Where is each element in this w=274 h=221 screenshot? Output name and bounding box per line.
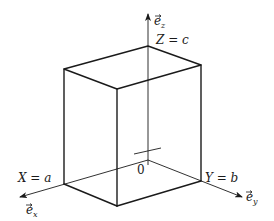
box <box>64 46 201 206</box>
z-axis-label: ez <box>154 14 166 30</box>
box-diagram: ez Z = c X = a Y = b ex ey 0 <box>0 0 274 221</box>
y-axis-label: ey <box>246 190 258 206</box>
origin-label: 0 <box>137 163 145 177</box>
box-bottom-left <box>64 184 117 206</box>
origin-tick <box>134 148 161 154</box>
box-bottom-right <box>117 181 201 206</box>
y-intercept-label: Y = b <box>205 171 238 185</box>
x-axis-label: ex <box>26 203 38 219</box>
z-intercept-label: Z = c <box>155 33 189 47</box>
x-intercept-label: X = a <box>17 171 51 185</box>
box-top-face <box>64 46 201 89</box>
axes <box>20 14 242 197</box>
